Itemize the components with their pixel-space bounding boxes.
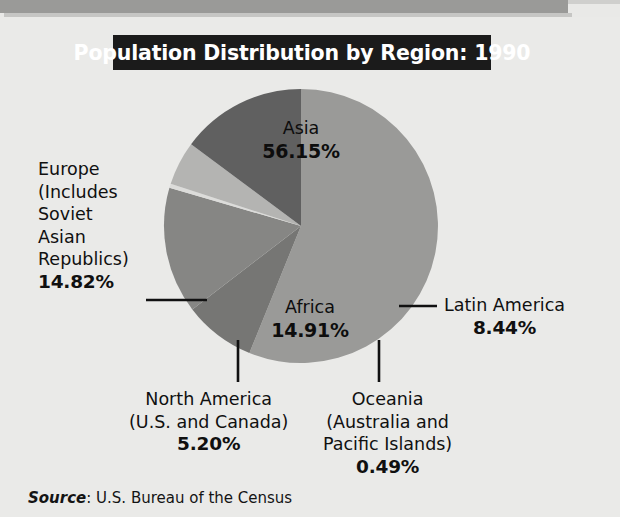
slice-label-oceania-line2: (Australia and — [323, 411, 452, 434]
source-label: Source — [28, 489, 86, 507]
slice-label-oceania-line1: Oceania — [323, 388, 452, 411]
slice-label-asia-name: Asia — [226, 117, 376, 140]
slice-label-europe-line4: Asian — [38, 226, 129, 249]
slice-value-europe: 14.82% — [38, 271, 129, 294]
slice-label-europe-line2: (Includes — [38, 181, 129, 204]
slice-label-europe-line1: Europe — [38, 158, 129, 181]
slice-label-north-america-line1: North America — [129, 388, 288, 411]
slice-label-latin-america: Latin America 8.44% — [444, 294, 565, 339]
slice-value-africa: 14.91% — [246, 319, 374, 342]
source-note: Source: U.S. Bureau of the Census — [28, 489, 292, 507]
slice-label-north-america: North America (U.S. and Canada) 5.20% — [129, 388, 288, 456]
slice-label-oceania: Oceania (Australia and Pacific Islands) … — [323, 388, 452, 478]
slice-label-latin-america-line1: Latin America — [444, 294, 565, 317]
slice-label-europe-line3: Soviet — [38, 203, 129, 226]
slice-label-africa-name: Africa — [246, 296, 374, 319]
slice-label-north-america-line2: (U.S. and Canada) — [129, 411, 288, 434]
slice-label-europe-line5: Republics) — [38, 248, 129, 271]
slice-label-oceania-line3: Pacific Islands) — [323, 433, 452, 456]
slice-value-north-america: 5.20% — [129, 433, 288, 456]
source-separator: : — [86, 489, 96, 507]
source-value: U.S. Bureau of the Census — [96, 489, 292, 507]
slice-label-europe: Europe (Includes Soviet Asian Republics)… — [38, 158, 129, 293]
slice-value-latin-america: 8.44% — [444, 317, 565, 340]
slice-label-asia: Asia 56.15% — [226, 117, 376, 163]
slice-value-oceania: 0.49% — [323, 456, 452, 479]
slice-label-africa: Africa 14.91% — [246, 296, 374, 342]
slice-value-asia: 56.15% — [226, 140, 376, 163]
